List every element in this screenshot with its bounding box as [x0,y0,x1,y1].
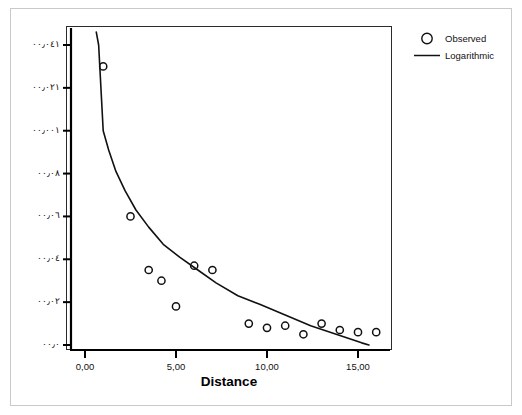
chart-figure: ١٤٠٫٠٠١٢٠٫٠٠١٠٠٫٠٠٨٠٫٠٠٦٠٫٠٠٤٠٫٠٠٢٠٫٠٠٠٫… [0,0,522,415]
axis-lines [70,28,390,350]
logarithmic-fit-line [96,32,369,345]
legend-item-observed: Observed [412,30,512,47]
open-circle-icon [412,30,442,47]
legend-label-logarithmic: Logarithmic [442,50,494,61]
x-axis-title: Distance [0,374,458,389]
legend-item-logarithmic: Logarithmic [412,47,512,64]
chart-legend: Observed Logarithmic [412,30,512,64]
solid-line-icon [412,47,442,64]
axis-tick-marks [63,45,358,358]
legend-label-observed: Observed [442,33,486,44]
